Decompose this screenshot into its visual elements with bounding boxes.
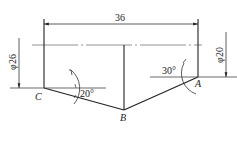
dimension-phi20: φ20	[214, 32, 226, 77]
dimension-phi20-label: φ20	[214, 47, 225, 63]
dimension-phi26: φ26	[7, 38, 19, 88]
angle-A-label: 30°	[162, 65, 176, 76]
point-C-label: C	[35, 91, 42, 102]
angle-C-label: 20°	[80, 88, 94, 99]
dimension-36: 36	[44, 12, 198, 24]
point-A-label: A	[194, 78, 202, 89]
edge-BA	[124, 77, 198, 110]
technical-drawing: 36 φ26 φ20 20° 30° C B A	[0, 0, 237, 143]
angle-arc-C: 20°	[69, 70, 94, 104]
dimension-36-label: 36	[115, 12, 125, 23]
angle-arc-A: 30°	[162, 59, 196, 94]
point-B-label: B	[120, 112, 126, 123]
dimension-phi26-label: φ26	[7, 54, 18, 70]
